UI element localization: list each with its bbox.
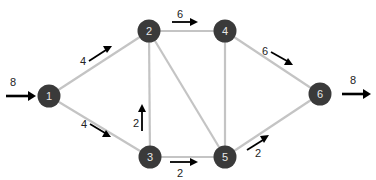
- source-inflow-arrow-icon: [6, 91, 36, 101]
- edge-2-3: [149, 31, 150, 157]
- node-6: 6: [309, 83, 332, 106]
- edges: [49, 31, 320, 157]
- edge-5-6: [225, 94, 320, 157]
- svg-text:4: 4: [222, 25, 228, 37]
- flow-label-1-3: 4: [81, 118, 87, 130]
- svg-text:1: 1: [46, 90, 52, 102]
- svg-text:2: 2: [146, 25, 152, 37]
- flow-arrow-3-2-icon: [138, 104, 146, 131]
- node-4: 4: [214, 20, 237, 43]
- flow-arrow-1-2-icon: [89, 46, 112, 61]
- flow-label-3-5: 2: [177, 167, 183, 179]
- nodes: 1 2 3 4 5 6: [38, 20, 332, 169]
- flow-arrow-3-5-icon: [170, 158, 198, 166]
- node-3: 3: [139, 146, 162, 169]
- node-1: 1: [38, 85, 61, 108]
- flow-label-5-6: 2: [255, 147, 261, 159]
- source-inflow-label: 8: [10, 76, 16, 88]
- sink-outflow-arrow-icon: [342, 89, 371, 99]
- edge-2-5: [149, 31, 225, 157]
- flow-label-3-2: 2: [133, 117, 139, 129]
- svg-text:6: 6: [317, 88, 323, 100]
- svg-text:3: 3: [147, 151, 153, 163]
- flow-label-2-4: 6: [177, 8, 183, 20]
- flow-network-diagram: 8 4 4 6 2 2: [0, 0, 376, 180]
- node-5: 5: [214, 146, 237, 169]
- edge-4-6: [225, 31, 320, 94]
- flow-label-4-6: 6: [262, 45, 268, 57]
- sink-outflow-label: 8: [350, 74, 356, 86]
- node-2: 2: [138, 20, 161, 43]
- edge-1-2: [49, 31, 149, 96]
- flow-arrow-2-4-icon: [172, 18, 198, 26]
- svg-text:5: 5: [222, 151, 228, 163]
- flow-label-1-2: 4: [80, 55, 86, 67]
